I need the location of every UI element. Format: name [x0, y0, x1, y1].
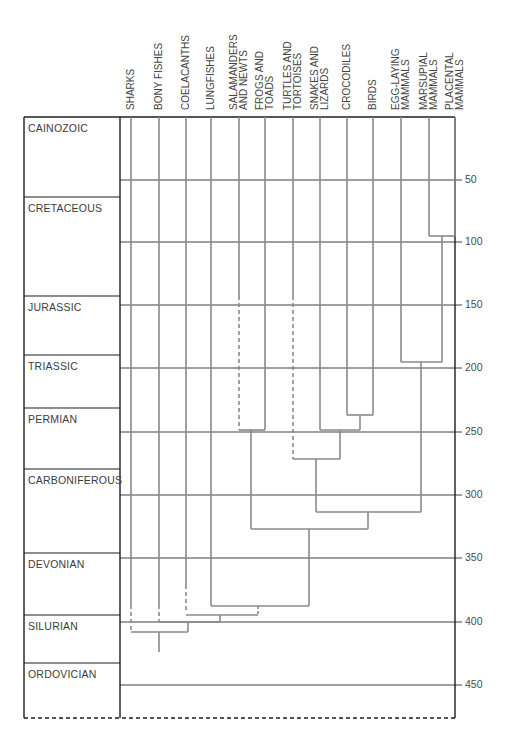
axis-tick-label: 350 — [465, 551, 483, 563]
axis-tick-label: 100 — [465, 235, 483, 247]
column-label: COELACANTHS — [181, 35, 191, 110]
column-label: FROGS AND TOADS — [255, 51, 275, 110]
period-label: TRIASSIC — [28, 360, 78, 372]
period-label: CARBONIFEROUS — [28, 474, 122, 486]
column-label: TURTLES AND TORTOISES — [283, 41, 303, 110]
period-label: ORDOVICIAN — [28, 668, 97, 680]
column-label: BIRDS — [368, 79, 378, 110]
column-label: MARSUPIAL MAMMALS — [419, 52, 439, 110]
column-label: LUNGFISHES — [206, 46, 216, 110]
axis-tick-label: 200 — [465, 361, 483, 373]
period-label: CAINOZOIC — [28, 122, 88, 134]
column-label: EGG-LAYING MAMMALS — [391, 49, 411, 111]
column-label: PLACENTAL MAMMALS — [445, 52, 465, 110]
axis-tick-label: 150 — [465, 298, 483, 310]
tree-branches — [131, 117, 455, 652]
period-label: SILURIAN — [28, 620, 78, 632]
axis-tick-label: 450 — [465, 678, 483, 690]
column-label: SALAMANDERS AND NEWTS — [229, 34, 249, 110]
axis-tick-label: 50 — [465, 173, 477, 185]
time-gridlines — [120, 180, 462, 685]
period-label: DEVONIAN — [28, 558, 84, 570]
period-label: JURASSIC — [28, 301, 82, 313]
column-label: BONY FISHES — [154, 43, 164, 110]
column-label: SHARKS — [126, 69, 136, 110]
period-label: CRETACEOUS — [28, 202, 102, 214]
column-label: CROCODILES — [342, 44, 352, 110]
axis-tick-label: 400 — [465, 615, 483, 627]
column-label: SNAKES AND LIZARDS — [310, 46, 330, 110]
axis-tick-label: 300 — [465, 488, 483, 500]
period-label: PERMIAN — [28, 413, 77, 425]
axis-tick-label: 250 — [465, 425, 483, 437]
